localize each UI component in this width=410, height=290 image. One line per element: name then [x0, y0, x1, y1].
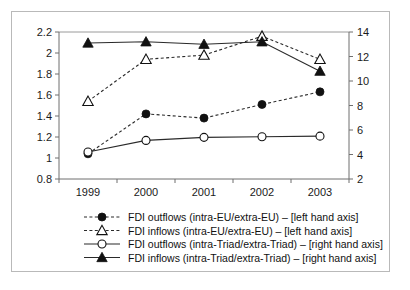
chart-legend: FDI outflows (intra-EU/extra-EU) – [left…: [84, 211, 383, 264]
data-point-marker: [200, 114, 208, 122]
right-axis-tick-label: 10: [357, 75, 369, 87]
data-point-marker: [84, 148, 92, 156]
data-point-marker: [141, 37, 151, 46]
left-axis-tick-label: 1: [46, 152, 52, 164]
data-point-marker: [316, 132, 324, 140]
right-axis-tick-label: 14: [357, 26, 369, 38]
left-axis-tick-label: 1.6: [37, 89, 52, 101]
data-point-marker: [258, 133, 266, 141]
data-point-marker: [141, 54, 151, 63]
x-axis-tick-label: 2002: [250, 186, 274, 198]
right-axis-tick-label: 12: [357, 51, 369, 63]
x-axis-tick-label: 1999: [76, 186, 100, 198]
legend-entry-2[interactable]: FDI outflows (intra-Triad/extra-Triad) –…: [84, 238, 383, 250]
data-point-marker: [98, 240, 106, 248]
x-axis-tick-label: 2000: [134, 186, 158, 198]
data-point-marker: [142, 136, 150, 144]
legend-entry-3[interactable]: FDI inflows (intra-Triad/extra-Triad) – …: [84, 252, 376, 264]
left-axis-tick-label: 0.8: [37, 173, 52, 185]
right-axis-tick-label: 8: [357, 100, 363, 112]
chart-canvas: 0.811.21.41.61.822.22468101214 199920002…: [12, 12, 391, 273]
legend-entry-label: FDI inflows (intra-EU/extra-EU) – [left …: [128, 225, 352, 237]
x-axis-tick-labels: 19992000200120022003: [76, 186, 332, 198]
data-point-marker: [316, 88, 324, 96]
data-point-marker: [315, 66, 325, 75]
left-axis-tick-label: 2.2: [37, 26, 52, 38]
left-axis-tick-label: 1.2: [37, 131, 52, 143]
legend-entry-label: FDI outflows (intra-Triad/extra-Triad) –…: [128, 238, 383, 250]
left-axis-tick-label: 2: [46, 47, 52, 59]
legend-entry-0[interactable]: FDI outflows (intra-EU/extra-EU) – [left…: [84, 211, 359, 223]
chart-series-2: [84, 132, 324, 156]
right-axis-tick-label: 4: [357, 149, 363, 161]
data-point-marker: [258, 100, 266, 108]
series-layer: [83, 31, 325, 158]
data-point-marker: [199, 50, 209, 59]
left-axis-tick-label: 1.4: [37, 110, 52, 122]
data-point-marker: [315, 54, 325, 63]
data-point-marker: [83, 96, 93, 105]
right-axis-tick-label: 6: [357, 124, 363, 136]
legend-entry-label: FDI outflows (intra-EU/extra-EU) – [left…: [128, 211, 359, 223]
legend-entry-1[interactable]: FDI inflows (intra-EU/extra-EU) – [left …: [84, 225, 352, 237]
fdi-ratio-line-chart: 0.811.21.41.61.822.22468101214 199920002…: [12, 12, 391, 273]
legend-entry-label: FDI inflows (intra-Triad/extra-Triad) – …: [128, 252, 376, 264]
left-axis-tick-label: 1.8: [37, 68, 52, 80]
x-axis-tick-label: 2003: [308, 186, 332, 198]
right-axis-tick-label: 2: [357, 173, 363, 185]
data-point-marker: [142, 110, 150, 118]
x-axis-tick-label: 2001: [192, 186, 216, 198]
data-point-marker: [98, 213, 106, 221]
chart-series-0: [84, 88, 324, 158]
data-point-marker: [200, 133, 208, 141]
chart-figure-frame: 0.811.21.41.61.822.22468101214 199920002…: [11, 11, 390, 272]
